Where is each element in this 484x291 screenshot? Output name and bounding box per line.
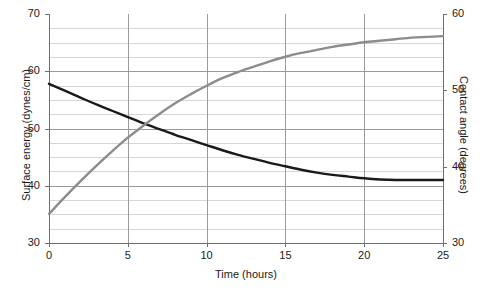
x-axis-title: Time (hours) — [49, 268, 443, 280]
chart-container: 7060504030 60504030 0510152025 Surface e… — [0, 0, 484, 291]
y-axis-right-title: Contact angle (degrees) — [458, 55, 470, 215]
x-axis-tick-label: 15 — [265, 249, 305, 261]
x-axis-tick-label: 5 — [108, 249, 148, 261]
x-axis-tick-label: 0 — [29, 249, 69, 261]
x-axis-tick-label: 25 — [423, 249, 463, 261]
x-axis-ticks: 0510152025 — [0, 0, 484, 291]
y-axis-left-title: Surface energy (dynes/cm) — [20, 55, 32, 215]
x-axis-tick-label: 10 — [187, 249, 227, 261]
x-axis-tick-label: 20 — [344, 249, 384, 261]
